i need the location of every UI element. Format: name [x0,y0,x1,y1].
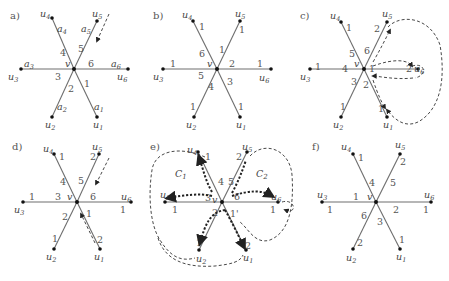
svg-text:1': 1' [230,208,239,219]
svg-text:1: 1 [172,204,178,215]
svg-text:1: 1 [86,208,92,219]
svg-text:v: v [65,58,71,69]
svg-text:u1: u1 [396,251,406,264]
svg-text:u3: u3 [317,189,327,202]
panel-label: f) [312,141,320,152]
panel-a: a) v u1 u2 u3 u4 u5 u6 1 2 3 4 5 6 a1 a2… [8,8,130,132]
panel-label: c) [300,10,310,21]
svg-text:5: 5 [78,175,84,186]
svg-text:1: 1 [52,233,58,244]
svg-text:u1: u1 [236,119,246,132]
svg-text:v: v [207,58,213,69]
svg-text:2: 2 [68,83,74,94]
svg-text:1: 1 [84,78,90,89]
svg-text:u4: u4 [341,141,351,154]
svg-text:u2: u2 [46,251,56,264]
svg-text:2: 2 [229,58,235,69]
svg-text:1: 1 [170,58,176,69]
panel-label: d) [12,141,22,152]
svg-text:2: 2 [357,237,363,248]
svg-text:1: 1 [315,61,321,72]
svg-text:3: 3 [227,76,233,87]
svg-text:1: 1 [120,204,126,215]
panel-d: d) v u1 u2 u3 u4 u5 u6 1 2 3 4 5 6 2 1 1… [12,141,133,264]
svg-text:1: 1 [238,101,244,112]
svg-text:a2: a2 [57,101,67,114]
svg-text:u1: u1 [94,251,104,264]
svg-text:1: 1 [270,204,276,215]
svg-text:u3: u3 [300,71,310,84]
svg-text:3: 3 [377,216,383,227]
svg-text:6: 6 [199,48,205,59]
svg-text:u1: u1 [243,252,253,265]
svg-text:u4: u4 [330,10,340,23]
svg-text:1: 1 [353,191,359,202]
svg-text:3: 3 [351,76,357,87]
svg-text:1: 1 [327,204,333,215]
svg-text:a5: a5 [81,23,91,36]
svg-text:5: 5 [78,43,84,54]
svg-text:4: 4 [369,177,375,188]
svg-text:u2: u2 [333,119,343,132]
panel-f: f) v u1 u2 u3 u4 u5 u6 3 6 1 4 5 2 1 2 1… [312,139,434,265]
svg-text:2: 2 [245,240,251,251]
svg-text:1: 1 [340,101,346,112]
svg-text:u5: u5 [92,8,102,21]
panel-label: e) [150,141,160,152]
svg-text:u4: u4 [187,144,197,157]
svg-text:2: 2 [400,156,406,167]
svg-text:4: 4 [60,176,66,187]
svg-text:u5: u5 [395,139,405,152]
svg-text:u4: u4 [40,8,50,21]
svg-text:C1: C1 [175,168,187,181]
figure: a) v u1 u2 u3 u4 u5 u6 1 2 3 4 5 6 a1 a2… [0,0,449,281]
svg-text:2: 2 [374,23,380,34]
svg-text:2: 2 [363,79,369,90]
svg-text:u6: u6 [259,72,269,85]
svg-text:v: v [354,58,360,69]
svg-text:u2: u2 [346,252,356,265]
svg-text:2: 2 [393,204,399,215]
svg-text:u1: u1 [383,119,393,132]
svg-text:1: 1 [369,63,375,74]
svg-text:u2: u2 [196,253,206,266]
svg-text:1: 1 [399,234,405,245]
svg-text:u6: u6 [424,189,434,202]
svg-text:C2: C2 [256,168,268,181]
svg-text:u1: u1 [93,119,103,132]
svg-text:3: 3 [55,191,61,202]
svg-text:1: 1 [358,152,364,163]
svg-text:6: 6 [361,210,367,221]
svg-text:1: 1 [205,151,211,162]
svg-text:v: v [212,194,218,205]
svg-text:6: 6 [88,58,94,69]
svg-text:2: 2 [90,151,96,162]
svg-text:1: 1 [196,237,202,248]
svg-text:1: 1 [29,191,35,202]
svg-text:u4: u4 [43,143,53,156]
panel-label: a) [10,10,20,21]
svg-text:1: 1 [346,22,352,33]
svg-text:2: 2 [406,63,412,74]
svg-text:u4: u4 [182,9,192,22]
panel-c: c) v u1 u2 u3 u4 u5 u6 2 3 4 5 6 1 1 1 1… [300,8,442,132]
svg-text:6: 6 [234,191,240,202]
svg-text:4: 4 [218,176,224,187]
svg-text:3: 3 [55,71,61,82]
svg-text:5: 5 [390,177,396,188]
svg-text:2: 2 [236,151,242,162]
panel-e: e) v u1 u2 u3 u4 u5 u6 C1 C2 1' 2 3 4 5 … [150,141,293,266]
svg-text:u2: u2 [186,119,196,132]
svg-text:1: 1 [257,58,263,69]
svg-text:a1: a1 [94,101,104,114]
svg-text:u2: u2 [45,119,55,132]
svg-text:1: 1 [199,21,205,32]
svg-text:v: v [67,191,73,202]
svg-text:1: 1 [423,204,429,215]
svg-text:u3: u3 [153,71,163,84]
svg-text:v: v [367,191,373,202]
panel-label: b) [153,10,163,21]
panel-b: b) v u1 u2 u3 u4 u5 u6 3 4 5 6 1 2 1 1 1… [153,8,273,132]
svg-text:u5: u5 [235,8,245,21]
svg-text:1: 1 [239,24,245,35]
